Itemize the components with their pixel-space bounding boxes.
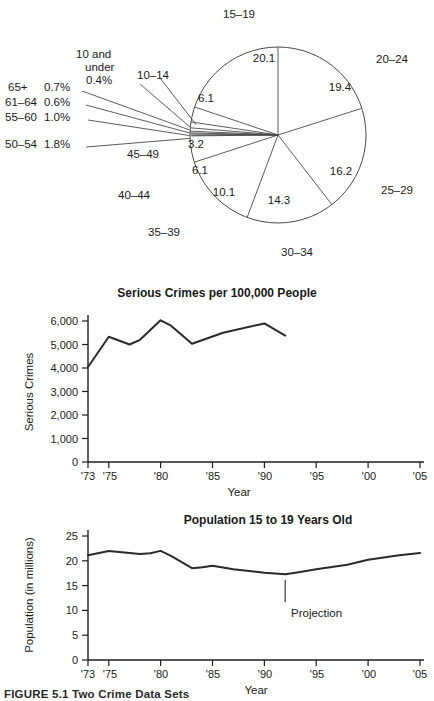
sc-ytick-3000: 3,000 (50, 386, 78, 398)
pie-value-10-14: 6.1 (198, 92, 214, 104)
pie-label-30-34: 30–34 (281, 246, 314, 258)
serious-crimes-ylabel: Serious Crimes (23, 352, 35, 431)
serious-crimes-xlabel: Year (227, 486, 250, 498)
pie-value-45-49: 3.2 (188, 138, 204, 150)
pop-xtick-73: '73 (81, 668, 95, 680)
pie-value-65plus: 0.7% (44, 81, 70, 93)
serious-crimes-title: Serious Crimes per 100,000 People (117, 286, 317, 300)
pie-label-40-44: 40–44 (118, 189, 151, 201)
pop-ytick-15: 15 (66, 580, 78, 592)
pie-value-15-19: 20.1 (253, 52, 275, 64)
projection-label: Projection (291, 607, 342, 619)
sc-ytick-0: 0 (72, 456, 78, 468)
population-ylabel: Population (in millions) (23, 537, 35, 653)
pie-chart: 15–19 20–24 25–29 30–34 35–39 40–44 45–4… (5, 8, 413, 258)
population-x-ticks (88, 660, 420, 666)
sc-ytick-5000: 5,000 (50, 339, 78, 351)
pie-label-10-14: 10–14 (137, 69, 170, 81)
pop-xtick-05: '05 (413, 668, 427, 680)
pie-label-10-and-under-line1: 10 and (76, 48, 111, 60)
pop-ytick-25: 25 (66, 530, 78, 542)
pie-value-55-60: 1.0% (44, 111, 70, 123)
population-title: Population 15 to 19 Years Old (184, 513, 353, 527)
pie-value-61-64: 0.6% (44, 96, 70, 108)
pie-label-61-64: 61–64 (5, 96, 38, 108)
pop-ytick-10: 10 (66, 604, 78, 616)
pie-value-25-29: 16.2 (330, 165, 352, 177)
pie-value-35-39: 10.1 (213, 186, 235, 198)
pie-label-25-29: 25–29 (381, 184, 413, 196)
pie-value-10-and-under: 0.4% (86, 74, 112, 86)
figure-container: 15–19 20–24 25–29 30–34 35–39 40–44 45–4… (0, 0, 434, 701)
pop-xtick-75: '75 (103, 668, 117, 680)
pie-label-55-60: 55–60 (5, 111, 37, 123)
figure-caption-wrap: FIGURE 5.1 Two Crime Data Sets (4, 688, 304, 701)
sc-xtick-00: '00 (362, 470, 376, 482)
sc-ytick-4000: 4,000 (50, 362, 78, 374)
pie-label-45-49: 45–49 (127, 148, 159, 160)
pie-leader-lines (82, 78, 196, 147)
pop-xtick-95: '95 (310, 668, 324, 680)
population-data-line (88, 551, 420, 574)
serious-crimes-chart: Serious Crimes per 100,000 People 0 1,00… (23, 286, 427, 498)
pie-label-20-24: 20–24 (376, 53, 409, 65)
pop-ytick-0: 0 (72, 654, 78, 666)
pie-value-30-34: 14.3 (268, 194, 290, 206)
population-y-ticks (82, 536, 88, 660)
pie-value-50-54: 1.8% (44, 138, 70, 150)
pop-ytick-5: 5 (72, 629, 78, 641)
sc-ytick-1000: 1,000 (50, 433, 78, 445)
pop-xtick-85: '85 (206, 668, 220, 680)
pop-xtick-90: '90 (258, 668, 272, 680)
figure-caption: FIGURE 5.1 Two Crime Data Sets (4, 688, 304, 701)
sc-ytick-2000: 2,000 (50, 409, 78, 421)
pie-label-35-39: 35–39 (148, 226, 180, 238)
serious-crimes-x-ticks (88, 462, 420, 468)
pie-value-40-44: 6.1 (192, 164, 208, 176)
sc-xtick-80: '80 (154, 470, 168, 482)
sc-xtick-73: '73 (81, 470, 95, 482)
pop-xtick-00: '00 (362, 668, 376, 680)
serious-crimes-y-ticks (82, 321, 88, 462)
sc-ytick-6000: 6,000 (50, 315, 78, 327)
sc-xtick-90: '90 (258, 470, 272, 482)
figure-svg: 15–19 20–24 25–29 30–34 35–39 40–44 45–4… (0, 0, 434, 701)
pie-label-50-54: 50–54 (5, 138, 38, 150)
pop-xtick-80: '80 (154, 668, 168, 680)
pop-ytick-20: 20 (66, 555, 78, 567)
pie-label-15-19: 15–19 (223, 8, 255, 20)
sc-xtick-05: '05 (413, 470, 427, 482)
pie-label-65plus: 65+ (8, 81, 28, 93)
population-chart: Population 15 to 19 Years Old 0 5 10 15 … (23, 513, 427, 696)
serious-crimes-data-line (88, 320, 285, 367)
pie-value-20-24: 19.4 (329, 81, 352, 93)
pie-label-10-and-under-line2: under (85, 61, 115, 73)
sc-xtick-95: '95 (310, 470, 324, 482)
sc-xtick-75: '75 (103, 470, 117, 482)
sc-xtick-85: '85 (206, 470, 220, 482)
